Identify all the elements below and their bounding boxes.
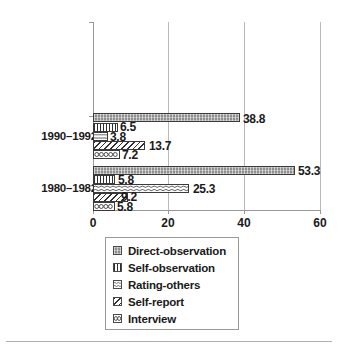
legend-item-rating-others: Rating-others <box>113 276 238 293</box>
x-tick-label-40: 40 <box>229 216 259 230</box>
x-tick-20 <box>168 210 169 214</box>
bar-1990-direct-observation <box>93 113 240 122</box>
x-tick-label-20: 20 <box>153 216 183 230</box>
bar-1980-interview <box>93 202 115 211</box>
legend-item-self-observation: Self-observation <box>113 259 238 276</box>
wavy-pattern-icon <box>114 281 121 288</box>
category-label-1990-1992: 1990–1992 <box>41 130 97 142</box>
chart-legend: Direct-observation Self-observation Rati… <box>105 237 239 330</box>
legend-item-direct-observation: Direct-observation <box>113 242 238 259</box>
wavy-lines-swatch-icon <box>113 280 122 289</box>
x-tick-40 <box>244 210 245 214</box>
bar-value-1990-self-report: 13.7 <box>149 139 171 153</box>
x-tick-label-60: 60 <box>305 216 335 230</box>
bar-chart-figure: 0 20 40 60 1990–1992 1980–1982 38.8 6.5 … <box>0 0 345 349</box>
wavy-pattern-icon <box>94 133 107 140</box>
vertical-lines-swatch-icon <box>113 263 122 272</box>
legend-label-interview: Interview <box>128 313 176 325</box>
diagonal-hatch-swatch-icon <box>113 297 122 306</box>
footer-divider <box>6 341 332 342</box>
y-tick-top <box>89 22 94 23</box>
category-label-1980-1982: 1980–1982 <box>41 182 97 194</box>
circles-pattern-icon <box>114 315 121 322</box>
x-tick-60 <box>320 210 321 214</box>
legend-label-self-report: Self-report <box>128 296 184 308</box>
bar-value-1980-direct-observation: 53.3 <box>298 164 320 178</box>
circles-pattern-icon <box>94 203 114 210</box>
legend-item-self-report: Self-report <box>113 293 238 310</box>
bar-1980-self-observation <box>93 175 115 184</box>
bar-value-1980-rating-others: 25.3 <box>193 182 215 196</box>
legend-label-self-observation: Self-observation <box>128 262 215 274</box>
bar-1990-rating-others <box>93 132 108 141</box>
legend-label-rating-others: Rating-others <box>128 279 200 291</box>
bar-value-1980-interview: 5.8 <box>117 200 133 214</box>
circles-pattern-icon <box>94 151 119 158</box>
bar-value-1990-interview: 7.2 <box>122 148 138 162</box>
bar-value-1990-direct-observation: 38.8 <box>243 112 265 126</box>
legend-label-direct-observation: Direct-observation <box>128 245 226 257</box>
circles-swatch-icon <box>113 314 122 323</box>
x-tick-label-0: 0 <box>78 216 108 230</box>
wavy-pattern-icon <box>94 185 188 192</box>
gridline-60 <box>320 22 321 210</box>
bar-1990-interview <box>93 150 120 159</box>
legend-item-interview: Interview <box>113 310 238 327</box>
bar-1980-rating-others <box>93 184 189 193</box>
gray-solid-swatch-icon <box>113 246 122 255</box>
